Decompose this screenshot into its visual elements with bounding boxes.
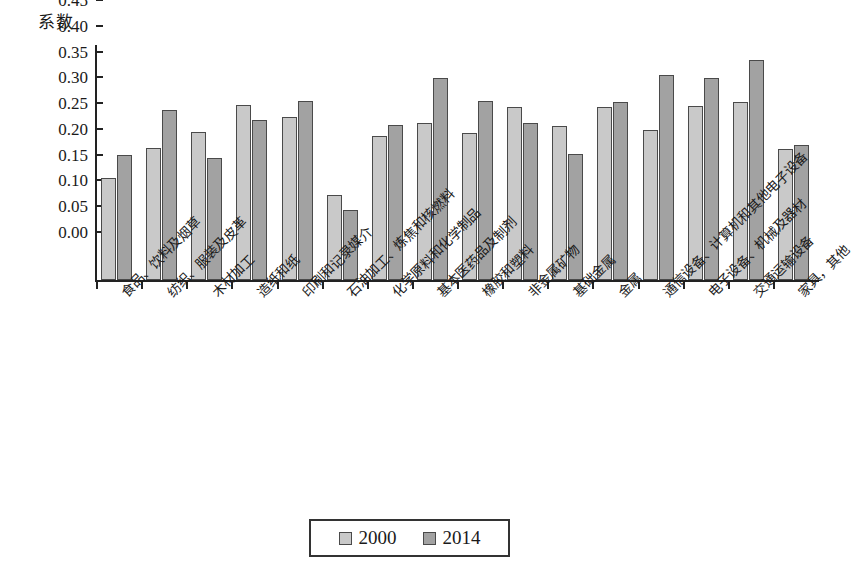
bar-group (186, 48, 231, 280)
bar-2000 (101, 178, 116, 280)
x-tick-mark (277, 282, 279, 289)
bar-2000 (643, 130, 658, 280)
bar-2000 (597, 107, 612, 280)
bar-2000 (733, 102, 748, 280)
bar-2014 (523, 123, 538, 280)
x-tick-mark (322, 282, 324, 289)
bar-2014 (613, 102, 628, 280)
bar-2000 (778, 149, 793, 280)
legend-item-2014: 2014 (423, 527, 481, 549)
bar-2000 (236, 105, 251, 280)
bar-2000 (417, 123, 432, 280)
y-tick-label: 0.45 (0, 0, 88, 9)
bar-2014 (252, 120, 267, 280)
x-tick-mark (141, 282, 143, 289)
x-tick-mark (412, 282, 414, 289)
x-tick-mark (728, 282, 730, 289)
bar-2000 (462, 133, 477, 280)
x-tick-mark (683, 282, 685, 289)
bar-2014 (388, 125, 403, 280)
x-tick-mark (547, 282, 549, 289)
bar-2014 (298, 101, 313, 280)
y-tick-label: 0.05 (0, 198, 88, 215)
bar-group (683, 48, 728, 280)
bar-group (547, 48, 592, 280)
y-tick-label: 0.00 (0, 224, 88, 241)
bar-2000 (507, 107, 522, 280)
y-axis-ticks: 0.450.400.350.300.250.200.150.100.050.00 (0, 0, 96, 565)
bar-2000 (372, 136, 387, 280)
chart-legend: 2000 2014 (309, 519, 510, 557)
bar-2000 (552, 126, 567, 280)
bar-group (638, 48, 683, 280)
bar-2014 (659, 75, 674, 280)
bar-2014 (117, 155, 132, 280)
legend-swatch-2000-icon (339, 532, 352, 545)
legend-label-2014: 2014 (443, 527, 481, 549)
bar-group (773, 48, 818, 280)
x-tick-mark (367, 282, 369, 289)
bar-group (96, 48, 141, 280)
bar-2014 (704, 78, 719, 280)
bar-group (412, 48, 457, 280)
bar-group (592, 48, 637, 280)
bar-group (141, 48, 186, 280)
bar-2014 (343, 210, 358, 280)
bar-2014 (433, 78, 448, 280)
y-tick-label: 0.15 (0, 147, 88, 164)
y-tick-label: 0.35 (0, 44, 88, 61)
bar-group (457, 48, 502, 280)
bar-group (322, 48, 367, 280)
bar-group (277, 48, 322, 280)
x-tick-mark (186, 282, 188, 289)
legend-swatch-2014-icon (423, 532, 436, 545)
bar-2000 (191, 132, 206, 280)
bar-2000 (146, 148, 161, 280)
bar-2014 (794, 145, 809, 280)
bar-group (367, 48, 412, 280)
y-tick-mark (96, 25, 103, 27)
bar-2014 (207, 158, 222, 280)
bar-2014 (162, 110, 177, 280)
bar-group (502, 48, 547, 280)
x-tick-mark (457, 282, 459, 289)
x-tick-mark (231, 282, 233, 289)
x-tick-mark (502, 282, 504, 289)
y-tick-label: 0.40 (0, 18, 88, 35)
x-tick-mark (96, 282, 98, 289)
y-tick-label: 0.10 (0, 172, 88, 189)
legend-item-2000: 2000 (339, 527, 397, 549)
x-tick-mark (592, 282, 594, 289)
bar-2000 (327, 195, 342, 280)
x-tick-mark (773, 282, 775, 289)
bar-groups (96, 48, 818, 280)
y-tick-label: 0.20 (0, 121, 88, 138)
bar-2000 (282, 117, 297, 280)
y-tick-mark (96, 0, 103, 1)
y-tick-label: 0.25 (0, 95, 88, 112)
bar-2014 (568, 154, 583, 280)
bar-group (728, 48, 773, 280)
bar-2014 (749, 60, 764, 280)
x-tick-mark (638, 282, 640, 289)
bar-2000 (688, 106, 703, 280)
legend-label-2000: 2000 (359, 527, 397, 549)
y-tick-label: 0.30 (0, 69, 88, 86)
bar-2014 (478, 101, 493, 280)
bar-group (231, 48, 276, 280)
